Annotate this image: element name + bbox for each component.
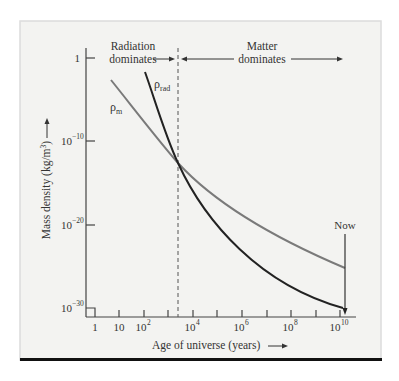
ytick-1: 1 — [75, 52, 81, 64]
mass-density-chart: 1 10 −10 10 −20 10 −30 1 10 10 2 10 4 10… — [0, 0, 399, 381]
chart-panel — [20, 21, 381, 360]
ytick-1e-20: 10 — [61, 219, 73, 231]
xtick-1e8-exp: 8 — [294, 318, 298, 327]
xtick-1e10-exp: 10 — [341, 318, 349, 327]
xtick-1e10: 10 — [330, 321, 342, 333]
radiation-label-line1: Radiation — [111, 40, 156, 52]
ytick-1e-10: 10 — [61, 135, 73, 147]
ytick-1e-20-exp: −20 — [72, 216, 84, 225]
xtick-1e4: 10 — [185, 321, 197, 333]
bottom-rule — [20, 358, 382, 361]
xtick-1e4-exp: 4 — [196, 318, 200, 327]
now-label: Now — [334, 219, 355, 231]
matter-label-line1: Matter — [247, 40, 278, 52]
xtick-1e2: 10 — [136, 321, 148, 333]
xtick-1e6-exp: 6 — [245, 318, 249, 327]
matter-label-line2: dominates — [238, 53, 286, 65]
xtick-1e2-exp: 2 — [147, 318, 151, 327]
xtick-10: 10 — [114, 321, 126, 333]
xtick-1e8: 10 — [283, 321, 295, 333]
y-axis-label-group: Mass density (kg/m3) — [39, 141, 53, 239]
radiation-label-line2: dominates — [109, 53, 157, 65]
x-axis-label: Age of universe (years) — [152, 339, 260, 352]
xtick-1e6: 10 — [234, 321, 246, 333]
ytick-1e-30: 10 — [61, 302, 73, 314]
xtick-1: 1 — [92, 321, 98, 333]
ytick-1e-30-exp: −30 — [72, 299, 84, 308]
y-axis-label: Mass density (kg/m3) — [39, 141, 53, 239]
ytick-1e-10-exp: −10 — [72, 132, 84, 141]
